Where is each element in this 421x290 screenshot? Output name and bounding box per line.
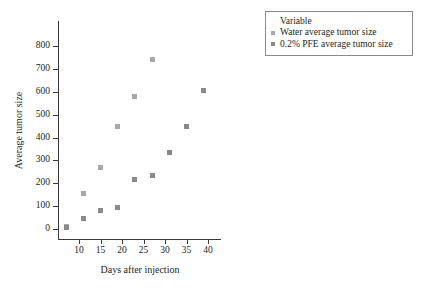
data-point	[184, 124, 189, 129]
y-tick	[53, 183, 58, 184]
x-axis-line	[58, 239, 221, 240]
y-tick-label: 0	[24, 224, 50, 234]
x-tick-label: 40	[196, 246, 220, 256]
x-axis-title: Days after injection	[0, 264, 280, 275]
x-tick-label: 30	[153, 246, 177, 256]
y-tick-label: 600	[24, 87, 50, 97]
data-point	[150, 173, 155, 178]
x-tick-label: 25	[132, 246, 156, 256]
legend-title: Variable	[271, 16, 407, 27]
x-tick	[79, 239, 80, 244]
x-tick-label: 10	[67, 246, 91, 256]
chart-legend: Variable Water average tumor size0.2% PF…	[265, 11, 413, 56]
legend-entry: 0.2% PFE average tumor size	[271, 39, 407, 51]
data-point	[98, 165, 103, 170]
y-axis-title: Average tumor size	[13, 66, 24, 196]
y-tick	[53, 138, 58, 139]
data-point	[98, 208, 103, 213]
x-tick	[187, 239, 188, 244]
y-axis-line	[58, 21, 59, 239]
x-tick	[208, 239, 209, 244]
data-point	[150, 57, 155, 62]
y-tick-label: 800	[24, 41, 50, 51]
data-point	[132, 177, 137, 182]
y-tick	[53, 46, 58, 47]
y-tick-label: 700	[24, 64, 50, 74]
data-point	[115, 205, 120, 210]
y-tick-label: 300	[24, 155, 50, 165]
x-tick	[144, 239, 145, 244]
y-tick	[53, 206, 58, 207]
y-tick	[53, 69, 58, 70]
legend-entry: Water average tumor size	[271, 27, 407, 39]
legend-entry-label: Water average tumor size	[280, 27, 377, 39]
data-point	[81, 216, 86, 221]
legend-swatch-icon	[271, 42, 275, 46]
y-tick-label: 200	[24, 178, 50, 188]
x-tick	[101, 239, 102, 244]
y-tick-label: 100	[24, 201, 50, 211]
x-tick-label: 15	[89, 246, 113, 256]
x-tick-label: 20	[110, 246, 134, 256]
legend-entry-label: 0.2% PFE average tumor size	[280, 39, 393, 51]
y-tick	[53, 92, 58, 93]
data-point	[201, 88, 206, 93]
y-tick	[53, 160, 58, 161]
data-point	[132, 94, 137, 99]
data-point	[81, 191, 86, 196]
x-tick	[122, 239, 123, 244]
data-point	[167, 150, 172, 155]
data-point	[115, 124, 120, 129]
data-point	[64, 225, 69, 230]
y-tick-label: 500	[24, 110, 50, 120]
x-tick	[165, 239, 166, 244]
legend-entries: Water average tumor size0.2% PFE average…	[271, 27, 407, 50]
y-tick	[53, 229, 58, 230]
x-tick-label: 35	[175, 246, 199, 256]
y-tick-label: 400	[24, 133, 50, 143]
y-tick	[53, 115, 58, 116]
scatter-plot-figure: 0100200300400500600700800 10152025303540…	[0, 0, 421, 290]
legend-swatch-icon	[271, 31, 275, 35]
